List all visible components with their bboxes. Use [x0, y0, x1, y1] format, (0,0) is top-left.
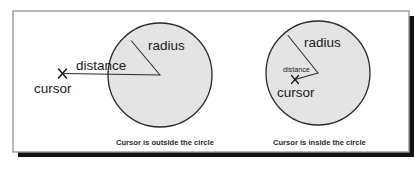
distance-label-inside: distance	[283, 65, 310, 74]
caption-cursor-inside: Cursor is inside the circle	[273, 138, 366, 147]
figure-root: radius distance cursor Cursor is outside…	[0, 0, 419, 173]
radius-label-outside: radius	[148, 38, 185, 53]
distance-label-outside: distance	[76, 58, 126, 73]
cursor-label-inside: cursor	[277, 85, 315, 100]
circle-distance-figure: radius distance cursor Cursor is outside…	[0, 0, 419, 173]
cursor-label-outside: cursor	[34, 81, 72, 96]
caption-cursor-outside: Cursor is outside the circle	[116, 138, 214, 147]
radius-label-inside: radius	[304, 35, 341, 50]
